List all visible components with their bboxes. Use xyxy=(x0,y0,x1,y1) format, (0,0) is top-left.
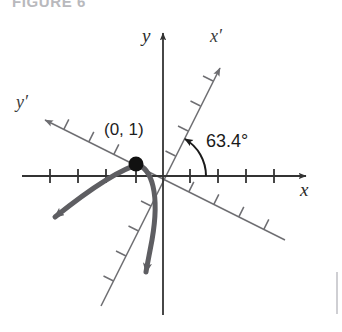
page-edge-fragment xyxy=(336,272,338,314)
point-dot xyxy=(129,157,144,172)
angle-arc: 63.4° xyxy=(185,131,248,176)
x-axis-label: x xyxy=(299,179,309,200)
point-coordinate-label: (0, 1) xyxy=(104,120,144,139)
y-prime-axis-label: y′ xyxy=(14,92,29,112)
angle-value-label: 63.4° xyxy=(206,131,248,151)
rotated-axes-diagram: y′ x′ y xyxy=(0,0,342,332)
point-0-1: (0, 1) xyxy=(104,120,144,172)
x-prime-axis-label: x′ xyxy=(209,26,223,46)
rotated-parabola-curve xyxy=(55,164,155,272)
x-prime-ticks xyxy=(104,76,214,281)
x-axis: x xyxy=(22,169,309,200)
y-axis-label: y xyxy=(140,25,151,46)
figure-page: FIGURE 6 xyxy=(0,0,342,332)
